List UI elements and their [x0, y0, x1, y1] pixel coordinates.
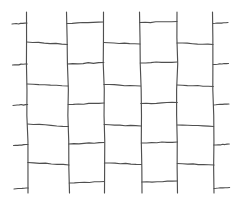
figure-background: [0, 0, 239, 203]
lattice-sketch-canvas: [0, 0, 239, 203]
lattice-sketch-figure: [0, 0, 239, 203]
